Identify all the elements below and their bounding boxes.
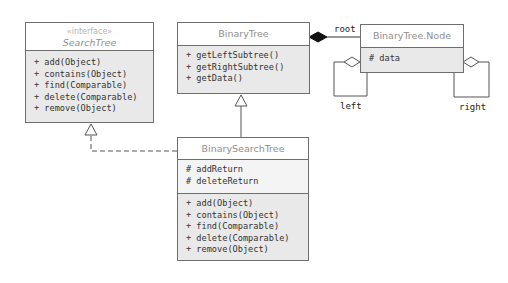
class-header: «interface» SearchTree bbox=[26, 23, 153, 51]
realization-arrow bbox=[85, 124, 177, 151]
method: + remove(Object) bbox=[34, 103, 153, 115]
method: + add(Object) bbox=[186, 198, 308, 210]
method: + add(Object) bbox=[34, 57, 153, 69]
class-binary-search-tree: BinarySearchTree # addReturn # deleteRet… bbox=[177, 137, 309, 261]
attribute-list: # addReturn # deleteReturn bbox=[178, 160, 308, 194]
class-header: BinarySearchTree bbox=[178, 138, 308, 160]
method: + getRightSubtree() bbox=[186, 62, 309, 74]
class-header: BinaryTree.Node bbox=[361, 25, 463, 48]
method: + contains(Object) bbox=[34, 69, 153, 81]
method-list: + add(Object) + contains(Object) + find(… bbox=[26, 51, 153, 122]
method: + find(Comparable) bbox=[34, 80, 153, 92]
left-label: left bbox=[340, 101, 362, 111]
method: + delete(Comparable) bbox=[34, 92, 153, 104]
method-list: + getLeftSubtree() + getRightSubtree() +… bbox=[178, 46, 309, 93]
class-name: BinaryTree.Node bbox=[373, 30, 451, 41]
class-header: BinaryTree bbox=[178, 23, 309, 46]
method: + contains(Object) bbox=[186, 210, 308, 222]
class-name: BinaryTree bbox=[218, 28, 268, 39]
attribute: # addReturn bbox=[186, 164, 308, 176]
stereotype-label: «interface» bbox=[26, 23, 153, 37]
method: + find(Comparable) bbox=[186, 221, 308, 233]
right-label: right bbox=[459, 102, 486, 112]
method: + delete(Comparable) bbox=[186, 233, 308, 245]
class-binary-tree-node: BinaryTree.Node # data bbox=[360, 24, 464, 73]
class-name: BinarySearchTree bbox=[202, 143, 285, 154]
class-search-tree: «interface» SearchTree + add(Object) + c… bbox=[25, 22, 154, 123]
attribute: # deleteReturn bbox=[186, 176, 308, 188]
attribute: # data bbox=[369, 53, 463, 65]
method-list: + add(Object) + contains(Object) + find(… bbox=[178, 194, 308, 260]
root-label: root bbox=[334, 24, 356, 34]
attribute-list: # data bbox=[361, 48, 463, 72]
method: + getLeftSubtree() bbox=[186, 50, 309, 62]
class-name: SearchTree bbox=[26, 37, 153, 49]
class-binary-tree: BinaryTree + getLeftSubtree() + getRight… bbox=[177, 22, 310, 94]
method: + getData() bbox=[186, 73, 309, 85]
method: + remove(Object) bbox=[186, 244, 308, 256]
generalization-arrow bbox=[235, 95, 247, 137]
